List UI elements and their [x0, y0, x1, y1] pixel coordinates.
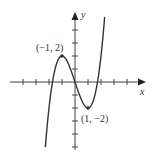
x-axis-arrow-icon	[138, 79, 146, 86]
local-min-label: (1, −2)	[81, 113, 108, 125]
local-min-point	[86, 106, 90, 110]
cubic-function-graph: (−1, 2) (1, −2) y x	[0, 0, 152, 158]
local-max-point	[60, 54, 64, 58]
y-axis-label: y	[80, 9, 86, 20]
x-axis	[10, 79, 146, 86]
x-axis-label: x	[139, 86, 145, 97]
y-axis-arrow-icon	[72, 12, 79, 20]
graph-canvas: (−1, 2) (1, −2) y x	[0, 0, 152, 158]
local-max-label: (−1, 2)	[36, 42, 63, 54]
